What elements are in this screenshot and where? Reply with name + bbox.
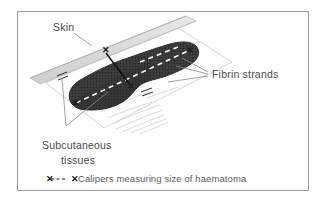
caliper-marker-long-right: ✕ [186, 45, 194, 55]
legend-caption: Calipers measuring size of haematoma [78, 173, 247, 184]
caliper-marker-long-left: ✕ [72, 98, 80, 108]
label-fibrin-strands: Fibrin strands [212, 68, 278, 80]
legend-row: ✕ ✕ Calipers measuring size of haematoma [46, 173, 247, 184]
haematoma-diagram: ✕ ✕ ✕ ✕ Skin F [0, 0, 324, 208]
label-subcutaneous-line1: Subcutaneous [42, 139, 112, 151]
figure-container: ✕ ✕ ✕ ✕ Skin F [0, 0, 324, 208]
caliper-marker-short-bottom: ✕ [127, 81, 135, 91]
leader-line-skin [74, 33, 92, 46]
caliper-marker-short-top: ✕ [102, 45, 110, 55]
label-skin: Skin [53, 21, 74, 33]
label-subcutaneous-line2: tissues [61, 154, 95, 166]
